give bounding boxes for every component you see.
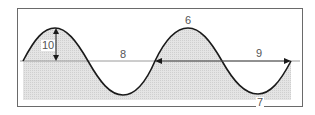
label-wavelength-top: 8 bbox=[120, 49, 126, 60]
label-crest: 6 bbox=[185, 15, 191, 26]
sine-wave-diagram bbox=[0, 0, 315, 115]
label-wavelength-arrow: 9 bbox=[256, 48, 262, 59]
label-amplitude: 10 bbox=[41, 40, 55, 51]
label-trough: 7 bbox=[256, 97, 264, 108]
